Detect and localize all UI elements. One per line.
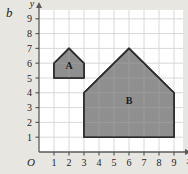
y-tick-label: 1 bbox=[27, 132, 32, 143]
x-tick-label: 8 bbox=[157, 157, 162, 168]
y-axis-arrow bbox=[36, 2, 42, 8]
y-tick-label: 4 bbox=[27, 87, 32, 98]
x-tick-label: 3 bbox=[82, 157, 87, 168]
coordinate-plot: AB123456789123456789Oxy bbox=[0, 0, 188, 174]
y-axis-label: y bbox=[29, 0, 35, 9]
y-tick-label: 6 bbox=[27, 58, 32, 69]
figure-panel: b AB123456789123456789Oxy bbox=[0, 0, 188, 174]
y-tick-label: 5 bbox=[27, 73, 32, 84]
x-tick-label: 1 bbox=[52, 157, 57, 168]
origin-label: O bbox=[27, 156, 35, 168]
y-tick-label: 8 bbox=[27, 28, 32, 39]
y-tick-label: 2 bbox=[27, 117, 32, 128]
x-tick-label: 6 bbox=[127, 157, 132, 168]
x-tick-label: 5 bbox=[112, 157, 117, 168]
y-tick-label: 3 bbox=[27, 102, 32, 113]
x-tick-label: 9 bbox=[172, 157, 177, 168]
x-axis-label: x bbox=[186, 155, 188, 166]
shape-label-A: A bbox=[65, 60, 73, 71]
x-tick-label: 2 bbox=[67, 157, 72, 168]
y-tick-label: 7 bbox=[27, 43, 32, 54]
shape-label-B: B bbox=[126, 95, 133, 106]
x-tick-label: 4 bbox=[97, 157, 102, 168]
y-tick-label: 9 bbox=[27, 13, 32, 24]
x-tick-label: 7 bbox=[142, 157, 147, 168]
